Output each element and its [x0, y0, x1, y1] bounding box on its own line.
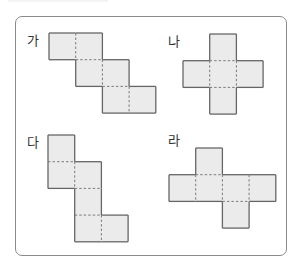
net-face — [129, 86, 156, 113]
net-face — [76, 60, 103, 87]
net-face — [49, 33, 76, 60]
net-face — [101, 215, 128, 242]
net-face — [236, 61, 263, 88]
net-face — [196, 148, 223, 175]
nets-diagram — [0, 0, 302, 271]
net-face — [222, 175, 249, 202]
net-na — [183, 34, 263, 114]
net-face — [102, 86, 129, 113]
net-face — [75, 188, 102, 215]
net-face — [48, 135, 75, 162]
net-face — [169, 175, 196, 202]
net-da — [48, 135, 128, 242]
net-face — [210, 34, 237, 61]
net-face — [75, 162, 102, 189]
net-face — [222, 201, 249, 228]
net-face — [249, 175, 276, 202]
net-face — [210, 61, 237, 88]
net-face — [48, 162, 75, 189]
net-face — [210, 87, 237, 114]
net-face — [75, 215, 102, 242]
net-ga — [49, 33, 156, 113]
net-face — [183, 61, 210, 88]
net-face — [102, 60, 129, 87]
net-ra — [169, 148, 276, 228]
net-face — [76, 33, 103, 60]
net-face — [196, 175, 223, 202]
